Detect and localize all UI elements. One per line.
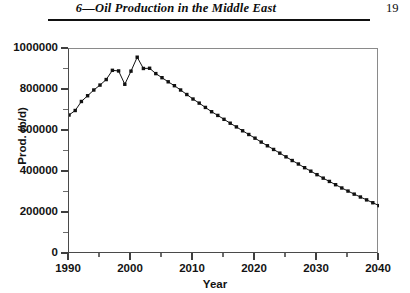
y-axis-minor-tick (63, 150, 68, 151)
data-point-marker (111, 69, 114, 72)
x-axis-minor-tick (222, 253, 223, 257)
data-series-plot (69, 49, 379, 254)
y-axis-minor-tick (63, 109, 68, 110)
page-header-title: 6—Oil Production in the Middle East (0, 1, 352, 16)
y-axis-tick-label: 0 (52, 247, 58, 259)
y-axis-minor-tick (63, 232, 68, 233)
x-axis-minor-tick (98, 253, 99, 257)
y-axis-tick-label: 1000000 (13, 42, 58, 54)
y-axis-tick-label: 800000 (20, 83, 58, 95)
x-axis-title: Year (0, 278, 410, 290)
data-point-marker (365, 198, 368, 201)
data-point-marker (253, 136, 256, 139)
x-axis-major-tick (315, 253, 316, 260)
data-point-marker (160, 76, 163, 79)
data-point-marker (98, 83, 101, 86)
y-axis-major-tick (61, 88, 68, 89)
y-axis-tick-label: 200000 (20, 206, 58, 218)
data-point-marker (260, 140, 263, 143)
data-point-marker (216, 114, 219, 117)
data-point-marker (204, 106, 207, 109)
data-point-marker (86, 94, 89, 97)
x-axis-major-tick (129, 253, 130, 260)
data-point-marker (309, 169, 312, 172)
chart-figure: Prod. (b/d) Year 02000004000006000008000… (0, 26, 410, 293)
series-line (69, 57, 379, 205)
data-point-marker (266, 144, 269, 147)
y-axis-major-tick (61, 129, 68, 130)
data-point-marker (328, 180, 331, 183)
data-point-marker (322, 176, 325, 179)
y-axis-minor-tick (63, 191, 68, 192)
y-axis-major-tick (61, 47, 68, 48)
data-point-marker (297, 162, 300, 165)
data-point-marker (69, 113, 71, 116)
page-header: 6—Oil Production in the Middle East 19 (0, 0, 410, 26)
data-point-marker (74, 109, 77, 112)
data-point-marker (247, 133, 250, 136)
x-axis-major-tick (377, 253, 378, 260)
data-point-marker (129, 69, 132, 72)
data-point-marker (105, 78, 108, 81)
x-axis-minor-tick (346, 253, 347, 257)
data-point-marker (80, 100, 83, 103)
data-point-marker (154, 72, 157, 75)
data-point-marker (241, 129, 244, 132)
data-point-marker (334, 183, 337, 186)
data-point-marker (185, 93, 188, 96)
data-point-marker (92, 88, 95, 91)
data-point-marker (284, 155, 287, 158)
data-point-marker (173, 84, 176, 87)
data-point-marker (123, 83, 126, 86)
data-point-marker (167, 80, 170, 83)
data-point-marker (315, 173, 318, 176)
data-point-marker (291, 159, 294, 162)
x-axis-tick-label: 1990 (55, 262, 81, 274)
data-point-marker (303, 166, 306, 169)
x-axis-tick-label: 2030 (303, 262, 329, 274)
data-point-marker (359, 195, 362, 198)
y-axis-tick-label: 400000 (20, 165, 58, 177)
x-axis-tick-label: 2010 (179, 262, 205, 274)
y-axis-tick-label: 600000 (20, 124, 58, 136)
x-axis-major-tick (191, 253, 192, 260)
data-point-marker (235, 125, 238, 128)
data-point-marker (346, 189, 349, 192)
x-axis-title-text: Year (203, 278, 227, 290)
data-point-marker (210, 110, 213, 113)
data-point-marker (198, 101, 201, 104)
x-axis-minor-tick (160, 253, 161, 257)
data-point-marker (278, 151, 281, 154)
data-point-marker (136, 56, 139, 59)
data-point-marker (272, 148, 275, 151)
data-point-marker (142, 67, 145, 70)
data-point-marker (179, 88, 182, 91)
y-axis-major-tick (61, 211, 68, 212)
data-point-marker (191, 97, 194, 100)
x-axis-tick-label: 2020 (241, 262, 267, 274)
data-point-marker (340, 186, 343, 189)
x-axis-tick-label: 2000 (117, 262, 143, 274)
data-point-marker (148, 67, 151, 70)
y-axis-major-tick (61, 170, 68, 171)
y-axis-minor-tick (63, 68, 68, 69)
x-axis-major-tick (67, 253, 68, 260)
data-point-marker (371, 201, 374, 204)
data-point-marker (229, 122, 232, 125)
plot-area (68, 48, 378, 253)
data-point-marker (353, 192, 356, 195)
page-number: 19 (386, 1, 410, 16)
x-axis-minor-tick (284, 253, 285, 257)
data-point-marker (377, 204, 379, 207)
x-axis-major-tick (253, 253, 254, 260)
data-point-marker (117, 69, 120, 72)
x-axis-tick-label: 2040 (365, 262, 391, 274)
data-point-marker (222, 118, 225, 121)
header-divider-rule (48, 19, 370, 21)
